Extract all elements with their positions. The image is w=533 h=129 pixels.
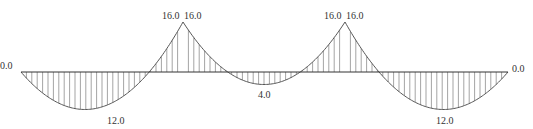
label-support-c-left: 16.0	[324, 10, 342, 21]
moment-curve-span-3	[345, 22, 508, 110]
label-support-b-left: 16.0	[162, 10, 180, 21]
label-span-1-max: 12.0	[107, 115, 125, 126]
label-support-c-right: 16.0	[346, 10, 364, 21]
label-support-d: 0.0	[512, 63, 525, 74]
label-span-2-max: 4.0	[258, 89, 271, 100]
label-support-b-right: 16.0	[184, 10, 202, 21]
label-support-a: 0.0	[0, 60, 13, 71]
moment-diagram: 0.0 16.0 16.0 12.0 4.0 16.0 16.0 12.0 0.…	[0, 0, 533, 129]
label-span-3-max: 12.0	[436, 115, 454, 126]
